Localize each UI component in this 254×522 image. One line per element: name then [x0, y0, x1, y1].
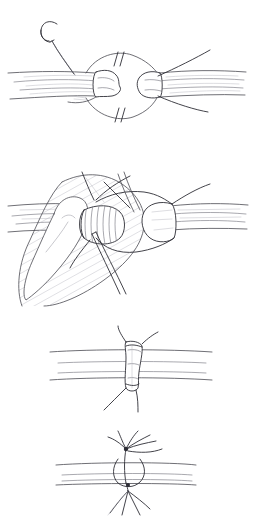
tied-knot	[114, 447, 145, 491]
suture-tail-left	[68, 96, 96, 103]
tissue-striations-right	[158, 71, 246, 97]
suture-strand-free	[158, 50, 210, 112]
tissue-end-right	[142, 202, 176, 241]
suture-tails-lower	[108, 491, 150, 515]
suture-thread	[52, 41, 75, 75]
tissue-end-left	[93, 70, 121, 97]
tissue-striations-right	[170, 204, 248, 230]
tissue-striations-left	[8, 72, 98, 100]
panel-step-4	[0, 425, 254, 522]
suture-tail-upper	[118, 326, 158, 344]
vertical-suture-loop	[125, 341, 142, 391]
panel-step-3	[0, 320, 254, 425]
panel-step-1	[0, 0, 254, 150]
index-finger	[24, 197, 88, 300]
suture-tail-lower	[104, 388, 138, 412]
panel-step-2	[0, 160, 254, 310]
curved-suture-needle	[41, 22, 57, 42]
coiled-tissue	[80, 202, 125, 248]
illustration-figure: Curved needle passed through approximate…	[0, 0, 254, 522]
suture-tails-upper	[108, 431, 162, 452]
